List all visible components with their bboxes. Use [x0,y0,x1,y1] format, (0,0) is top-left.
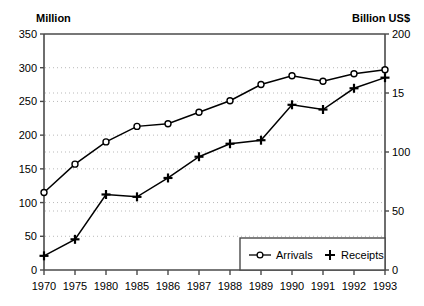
data-point-arrivals [382,67,388,73]
svg-text:50: 50 [25,230,37,242]
svg-text:15: 15 [392,87,404,99]
svg-text:1991: 1991 [311,280,335,292]
svg-text:1980: 1980 [94,280,118,292]
svg-text:0: 0 [392,264,398,276]
svg-text:1989: 1989 [249,280,273,292]
svg-text:150: 150 [19,163,37,175]
svg-text:50: 50 [392,205,404,217]
svg-text:350: 350 [19,28,37,40]
svg-text:1985: 1985 [125,280,149,292]
svg-text:100: 100 [19,197,37,209]
svg-text:100: 100 [392,146,410,158]
right-axis-title: Billion US$ [352,12,410,24]
data-point-arrivals [289,73,295,79]
svg-text:1988: 1988 [218,280,242,292]
data-point-arrivals [41,189,47,195]
legend-marker-open-circle [257,252,263,258]
data-point-arrivals [351,71,357,77]
svg-text:1975: 1975 [63,280,87,292]
chart-container: Million Billion US$ 05010015020025030035… [0,0,424,306]
svg-text:250: 250 [19,95,37,107]
chart-legend[interactable]: Arrivals Receipts [240,238,385,270]
legend-label-arrivals: Arrivals [276,249,313,261]
svg-text:0: 0 [31,264,37,276]
svg-text:1970: 1970 [32,280,56,292]
svg-text:300: 300 [19,62,37,74]
data-point-arrivals [103,139,109,145]
svg-text:1992: 1992 [342,280,366,292]
data-point-arrivals [134,123,140,129]
data-point-arrivals [72,161,78,167]
svg-text:200: 200 [19,129,37,141]
svg-text:1990: 1990 [280,280,304,292]
data-point-arrivals [320,78,326,84]
data-point-arrivals [258,82,264,88]
svg-text:1987: 1987 [187,280,211,292]
data-point-arrivals [165,121,171,127]
svg-text:1986: 1986 [156,280,180,292]
data-point-arrivals [227,98,233,104]
dual-axis-line-chart: Million Billion US$ 05010015020025030035… [0,0,424,306]
svg-text:1993: 1993 [373,280,397,292]
svg-text:200: 200 [392,28,410,40]
data-point-arrivals [196,109,202,115]
left-axis-title: Million [36,12,71,24]
legend-label-receipts: Receipts [341,249,384,261]
